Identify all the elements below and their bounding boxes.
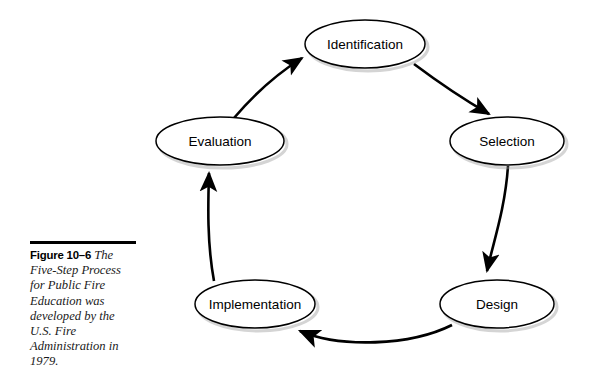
identification-label: Identification [327, 37, 403, 52]
implementation-label: Implementation [209, 297, 301, 312]
arrow-identification-to-selection [414, 64, 489, 114]
design-label: Design [476, 297, 518, 312]
caption-body: Figure 10–6The Five-Step Process for Pub… [30, 248, 138, 370]
figure-caption: Figure 10–6The Five-Step Process for Pub… [30, 241, 138, 370]
arrow-design-to-implementation [300, 325, 452, 342]
caption-figure-number: Figure 10–6 [30, 249, 91, 261]
node-identification[interactable]: Identification [305, 20, 425, 68]
node-implementation[interactable]: Implementation [195, 280, 315, 328]
caption-rule [30, 241, 136, 244]
caption-description: The Five-Step Process for Public Fire Ed… [30, 248, 121, 368]
node-evaluation[interactable]: Evaluation [156, 117, 284, 165]
arrow-implementation-to-evaluation [208, 173, 214, 281]
arrow-evaluation-to-identification [234, 58, 302, 118]
node-selection[interactable]: Selection [450, 117, 564, 165]
evaluation-label: Evaluation [188, 134, 251, 149]
arrow-selection-to-design [487, 166, 508, 271]
node-design[interactable]: Design [440, 280, 554, 328]
figure-10-6: Identification Selection Design Implemen… [0, 0, 610, 372]
selection-label: Selection [479, 134, 535, 149]
